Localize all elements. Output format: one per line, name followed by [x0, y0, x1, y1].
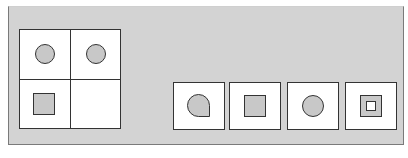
matrix-cell-top-left	[20, 30, 70, 79]
circle-icon	[35, 44, 55, 64]
answer-option-1[interactable]	[173, 82, 225, 130]
inner-square-icon	[366, 101, 376, 111]
matrix-grid	[19, 29, 121, 129]
square-icon	[33, 93, 55, 115]
circle-icon	[86, 44, 106, 64]
square-icon	[244, 95, 266, 117]
circle-icon	[302, 95, 324, 117]
answer-option-2[interactable]	[229, 82, 281, 130]
matrix-cell-bottom-left	[20, 80, 70, 129]
matrix-cell-bottom-right-missing	[71, 80, 121, 129]
matrix-cell-top-right	[71, 30, 121, 79]
teardrop-icon	[187, 94, 210, 117]
answer-option-3[interactable]	[287, 82, 339, 130]
nested-square-icon	[360, 95, 382, 117]
answer-option-4[interactable]	[345, 82, 397, 130]
